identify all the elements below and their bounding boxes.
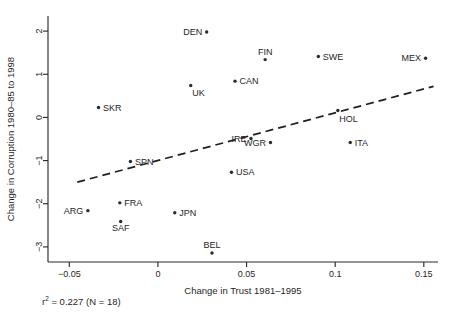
point-marker-swe — [317, 55, 320, 58]
point-label-ita: ITA — [355, 138, 368, 148]
y-tick-label: 0 — [34, 115, 44, 120]
point-marker-fin — [263, 58, 266, 61]
x-axis-title: Change in Trust 1981–1995 — [184, 285, 301, 296]
point-marker-ita — [349, 141, 352, 144]
point-label-bel: BEL — [203, 240, 220, 250]
point-label-fin: FIN — [258, 47, 273, 57]
data-point-wgr: WGR — [244, 138, 272, 148]
x-tick-label: −0.05 — [58, 269, 81, 279]
point-marker-arg — [86, 209, 89, 212]
y-tick-label: −3 — [34, 242, 44, 252]
y-tick-label: −2 — [34, 199, 44, 209]
data-point-bel: BEL — [203, 240, 220, 255]
point-label-saf: SAF — [112, 223, 130, 233]
x-tick-label: 0 — [155, 269, 160, 279]
point-marker-can — [233, 79, 236, 82]
point-marker-fra — [118, 201, 121, 204]
scatter-plot-figure: −3−2−1012−0.0500.050.10.15 DENFINSWEMEXC… — [0, 0, 452, 324]
point-marker-mex — [424, 57, 427, 60]
regression-trend-line — [77, 86, 433, 182]
data-point-can: CAN — [233, 76, 258, 86]
data-point-den: DEN — [183, 27, 208, 37]
plot-canvas: −3−2−1012−0.0500.050.10.15 DENFINSWEMEXC… — [0, 0, 452, 324]
point-label-mex: MEX — [402, 53, 422, 63]
data-point-fin: FIN — [258, 47, 273, 62]
point-marker-jpn — [173, 211, 176, 214]
point-label-den: DEN — [183, 27, 202, 37]
data-point-arg: ARG — [64, 206, 90, 216]
axis-titles: Change in Trust 1981–1995Change in Corru… — [5, 57, 302, 296]
point-label-spn: SPN — [135, 157, 154, 167]
point-label-wgr: WGR — [244, 138, 266, 148]
point-marker-skr — [97, 106, 100, 109]
point-label-uk: UK — [192, 88, 205, 98]
y-tick-label: 1 — [34, 72, 44, 77]
data-point-swe: SWE — [317, 52, 344, 62]
point-label-skr: SKR — [103, 103, 122, 113]
data-point-hol: HOL — [336, 109, 358, 124]
data-point-saf: SAF — [112, 220, 130, 234]
point-marker-hol — [336, 109, 339, 112]
r-squared-annotation: r2 = 0.227 (N = 18) — [42, 295, 121, 307]
x-tick-label: 0.15 — [415, 269, 433, 279]
data-point-usa: USA — [230, 167, 255, 177]
data-point-uk: UK — [189, 84, 205, 99]
y-tick-label: −1 — [34, 155, 44, 165]
point-label-can: CAN — [240, 76, 259, 86]
data-point-ita: ITA — [349, 138, 369, 148]
trend-line — [77, 86, 433, 182]
point-label-fra: FRA — [124, 198, 142, 208]
x-tick-label: 0.1 — [329, 269, 342, 279]
x-tick-label: 0.05 — [238, 269, 256, 279]
data-point-fra: FRA — [118, 198, 142, 208]
data-point-jpn: JPN — [173, 208, 196, 218]
data-point-skr: SKR — [97, 103, 122, 113]
point-label-arg: ARG — [64, 206, 84, 216]
r-squared-text: r2 = 0.227 (N = 18) — [42, 295, 121, 307]
point-label-jpn: JPN — [179, 208, 196, 218]
axes: −3−2−1012−0.0500.050.10.15 — [34, 16, 438, 279]
point-marker-spn — [129, 160, 132, 163]
data-points: DENFINSWEMEXCANUKSKRHOLIREWGRITASPNUSAFR… — [64, 27, 427, 254]
data-point-mex: MEX — [402, 53, 428, 63]
point-label-usa: USA — [236, 167, 255, 177]
data-point-spn: SPN — [129, 157, 154, 167]
y-axis-title: Change in Corruption 1980–85 to 1998 — [5, 57, 16, 221]
point-label-hol: HOL — [339, 114, 358, 124]
point-marker-uk — [189, 84, 192, 87]
point-marker-bel — [210, 251, 213, 254]
point-marker-den — [205, 30, 208, 33]
r-squared-value: = 0.227 (N = 18) — [49, 296, 121, 307]
point-marker-wgr — [269, 141, 272, 144]
point-label-swe: SWE — [323, 52, 344, 62]
y-tick-label: 2 — [34, 29, 44, 34]
point-marker-usa — [230, 171, 233, 174]
